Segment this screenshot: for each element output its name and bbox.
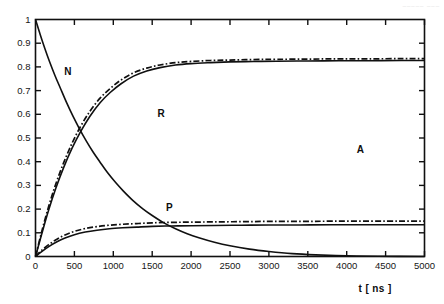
curve-label-p: P bbox=[166, 203, 173, 213]
chart-plot-area bbox=[0, 0, 444, 304]
x-tick-label: 5000 bbox=[400, 261, 444, 271]
curve-r-solid bbox=[36, 60, 425, 256]
curve-label-r: R bbox=[158, 109, 165, 119]
y-tick-label: 0.6 bbox=[0, 109, 31, 119]
y-tick-label: 0.3 bbox=[0, 180, 31, 190]
x-axis-title: t [ ns ] bbox=[359, 283, 392, 294]
y-tick-label: 0 bbox=[0, 252, 31, 262]
curve-label-a: A bbox=[357, 145, 364, 155]
curve-r-dashdot bbox=[36, 59, 425, 257]
chart-figure: 0500100015002000250030003500400045005000… bbox=[0, 0, 444, 304]
y-tick-label: 0.9 bbox=[0, 38, 31, 48]
y-tick-label: 1 bbox=[0, 15, 31, 25]
y-tick-label: 0.4 bbox=[0, 157, 31, 167]
y-tick-label: 0.7 bbox=[0, 86, 31, 96]
y-tick-label: 0.1 bbox=[0, 228, 31, 238]
y-tick-label: 0.2 bbox=[0, 204, 31, 214]
y-tick-label: 0.8 bbox=[0, 62, 31, 72]
curve-label-n: N bbox=[64, 67, 71, 77]
y-tick-label: 0.5 bbox=[0, 133, 31, 143]
